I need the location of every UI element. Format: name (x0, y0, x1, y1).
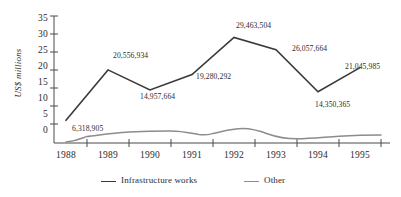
legend-label-infrastructure-works: Infrastructure works (121, 175, 197, 185)
series-line-other (66, 129, 381, 143)
series-line-infrastructure-works (66, 38, 360, 121)
legend-label-other: Other (264, 175, 285, 185)
legend-swatch-other (244, 181, 259, 182)
legend-swatch-infrastructure-works (101, 181, 116, 182)
plot-area (0, 0, 401, 197)
line-chart: US$ millions 35 30 25 20 15 10 5 0 1988 … (0, 0, 401, 197)
